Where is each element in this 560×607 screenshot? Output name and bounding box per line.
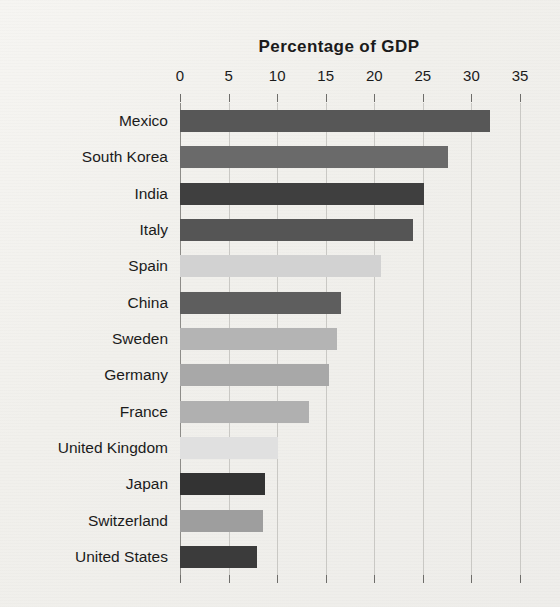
chart-page: Percentage of GDP 05101520253035MexicoSo… <box>0 0 560 607</box>
x-tick-bottom-25 <box>423 575 424 583</box>
chart-row: Switzerland <box>180 510 520 532</box>
x-tick-label-20: 20 <box>366 67 383 84</box>
x-tick-5 <box>229 94 230 102</box>
x-tick-bottom-10 <box>277 575 278 583</box>
chart-row: Germany <box>180 364 520 386</box>
chart-row: India <box>180 183 520 205</box>
x-tick-10 <box>277 94 278 102</box>
category-label: Sweden <box>4 328 180 350</box>
chart-row: China <box>180 292 520 314</box>
chart-row: Spain <box>180 255 520 277</box>
chart-row: Mexico <box>180 110 520 132</box>
x-tick-0 <box>180 94 181 102</box>
chart-row: United Kingdom <box>180 437 520 459</box>
x-tick-label-0: 0 <box>176 67 184 84</box>
bar-india <box>180 183 424 205</box>
bar-germany <box>180 364 329 386</box>
bar-italy <box>180 219 413 241</box>
category-label: United States <box>4 546 180 568</box>
chart-row: France <box>180 401 520 423</box>
category-label: Mexico <box>4 110 180 132</box>
x-tick-35 <box>520 94 521 102</box>
bar-switzerland <box>180 510 263 532</box>
category-label: Switzerland <box>4 510 180 532</box>
category-label: China <box>4 292 180 314</box>
category-label: South Korea <box>4 146 180 168</box>
bar-japan <box>180 473 265 495</box>
x-tick-bottom-15 <box>326 575 327 583</box>
bar-south-korea <box>180 146 448 168</box>
plot-area: 05101520253035MexicoSouth KoreaIndiaItal… <box>180 103 520 575</box>
x-tick-20 <box>374 94 375 102</box>
x-tick-bottom-0 <box>180 575 181 583</box>
bar-france <box>180 401 309 423</box>
category-label: Germany <box>4 364 180 386</box>
chart-row: United States <box>180 546 520 568</box>
x-tick-label-30: 30 <box>463 67 480 84</box>
x-tick-label-15: 15 <box>317 67 334 84</box>
x-tick-bottom-30 <box>471 575 472 583</box>
bar-mexico <box>180 110 490 132</box>
chart-row: Sweden <box>180 328 520 350</box>
chart-title: Percentage of GDP <box>0 37 560 57</box>
x-tick-bottom-20 <box>374 575 375 583</box>
category-label: Spain <box>4 255 180 277</box>
bar-china <box>180 292 341 314</box>
gridline-35 <box>520 103 521 575</box>
x-tick-bottom-5 <box>229 575 230 583</box>
bar-united-kingdom <box>180 437 278 459</box>
x-tick-bottom-35 <box>520 575 521 583</box>
bar-united-states <box>180 546 257 568</box>
chart-row: Italy <box>180 219 520 241</box>
category-label: Japan <box>4 473 180 495</box>
x-tick-label-5: 5 <box>224 67 232 84</box>
x-tick-15 <box>326 94 327 102</box>
category-label: India <box>4 183 180 205</box>
x-tick-label-25: 25 <box>415 67 432 84</box>
category-label: United Kingdom <box>4 437 180 459</box>
chart-row: Japan <box>180 473 520 495</box>
x-tick-label-10: 10 <box>269 67 286 84</box>
x-tick-30 <box>471 94 472 102</box>
category-label: Italy <box>4 219 180 241</box>
bar-spain <box>180 255 381 277</box>
x-tick-label-35: 35 <box>512 67 529 84</box>
chart-row: South Korea <box>180 146 520 168</box>
category-label: France <box>4 401 180 423</box>
bar-sweden <box>180 328 337 350</box>
x-tick-25 <box>423 94 424 102</box>
